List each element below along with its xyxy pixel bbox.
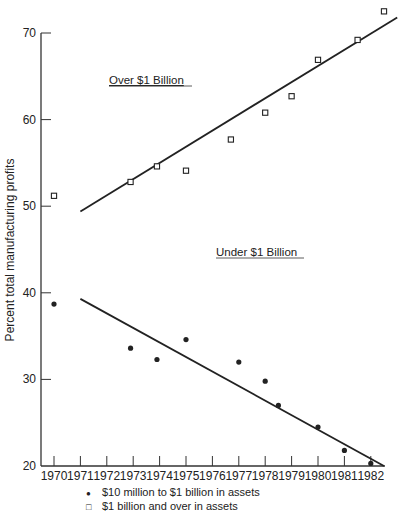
svg-text:1980: 1980 [305, 469, 332, 483]
svg-text:1971: 1971 [67, 469, 94, 483]
x-ticks: 1970197119721973197419751976197719781979… [41, 456, 385, 483]
chart: 203040506070 197019711972197319741975197… [0, 0, 418, 515]
svg-text:1982: 1982 [357, 469, 384, 483]
svg-text:1972: 1972 [93, 469, 120, 483]
svg-text:1974: 1974 [146, 469, 173, 483]
open-square-icon: □ [86, 502, 102, 512]
svg-text:60: 60 [23, 113, 37, 127]
data-points [51, 9, 386, 466]
y-axis-label: Percent total manufacturing profits [3, 159, 17, 342]
svg-text:1975: 1975 [173, 469, 200, 483]
svg-text:1978: 1978 [252, 469, 279, 483]
svg-text:40: 40 [23, 286, 37, 300]
svg-text:1979: 1979 [278, 469, 305, 483]
svg-text:1981: 1981 [331, 469, 358, 483]
legend-item-under: ●$10 million to $1 billion in assets [86, 486, 260, 498]
svg-text:1973: 1973 [120, 469, 147, 483]
legend-item-over: □$1 billion and over in assets [86, 500, 238, 512]
svg-text:70: 70 [23, 26, 37, 40]
annotation-under: Under $1 Billion [216, 246, 297, 258]
svg-text:1970: 1970 [41, 469, 68, 483]
svg-text:1976: 1976 [199, 469, 226, 483]
svg-text:20: 20 [23, 459, 37, 473]
filled-circle-icon: ● [86, 489, 102, 498]
y-ticks: 203040506070 [23, 26, 51, 473]
svg-text:30: 30 [23, 372, 37, 386]
annotation-over: Over $1 Billion [109, 74, 184, 86]
svg-text:50: 50 [23, 199, 37, 213]
svg-text:1977: 1977 [225, 469, 252, 483]
